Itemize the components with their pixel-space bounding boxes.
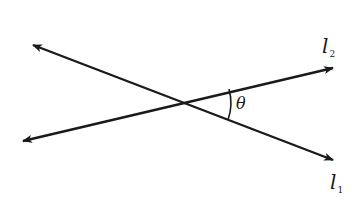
lines-svg [0,0,360,205]
line-l2 [23,68,333,141]
diagram-canvas: l2 l1 θ [0,0,360,205]
angle-label-theta: θ [236,94,246,113]
line-label-l2: l2 [322,34,335,59]
line-label-l1: l1 [330,170,343,195]
